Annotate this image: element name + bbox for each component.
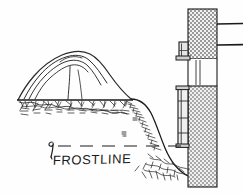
siding-course-lines (217, 24, 243, 46)
mound-outline (18, 51, 131, 100)
siding-line-upper (217, 24, 243, 25)
mulch-mound (18, 51, 131, 100)
frostline-label: FROSTLINE (53, 151, 132, 168)
wall-upper-course (188, 9, 217, 59)
mound-center-crease (68, 66, 70, 99)
upper-flashing-bracket (176, 42, 190, 60)
ground-soil-hatch (19, 101, 129, 115)
drawing-canvas: FROSTLINE (0, 0, 243, 194)
wall-course-gap (188, 59, 217, 86)
foundation-wall (188, 9, 217, 187)
mound-contour-2 (29, 60, 101, 99)
mound-side-crease (78, 70, 82, 99)
wall-lower-course (188, 86, 217, 187)
lower-flashing-panel (176, 86, 189, 147)
